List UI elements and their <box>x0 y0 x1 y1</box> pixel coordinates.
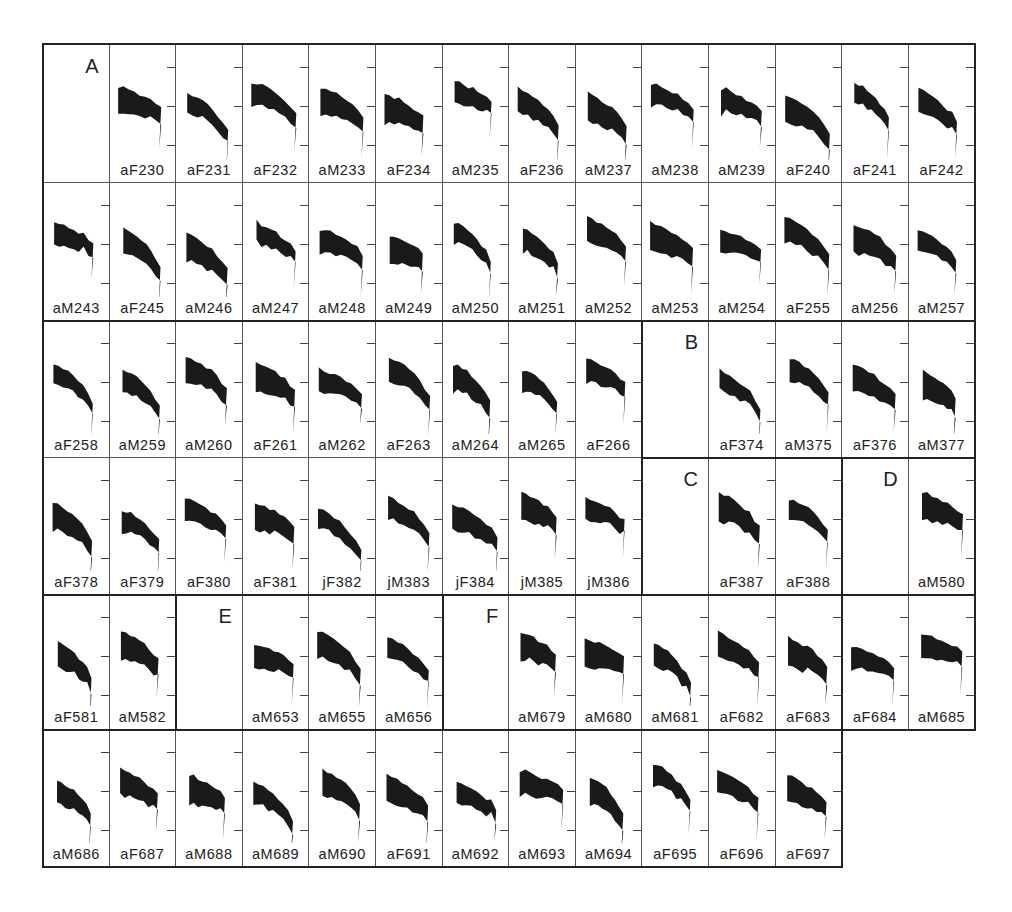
spectrogram-panel: aF230 <box>110 44 177 183</box>
panel-label: aF697 <box>776 846 842 862</box>
panel-label: aF691 <box>376 846 442 862</box>
spectrogram-panel: aM250 <box>443 183 510 321</box>
panel-label: aM262 <box>309 437 375 453</box>
spectrogram-shape <box>776 45 843 160</box>
panel-label: aF581 <box>44 709 109 725</box>
spectrogram-shape <box>776 730 843 843</box>
spectrogram-shape <box>376 321 443 434</box>
panel-label: aF695 <box>642 846 708 862</box>
spectrogram-panel: aM243 <box>43 183 110 321</box>
spectrogram-shape <box>576 45 643 160</box>
spectrogram-panel: aM257 <box>909 183 976 321</box>
spectrogram-panel: aM262 <box>309 321 376 458</box>
spectrogram-panel: aF231 <box>176 44 243 183</box>
group-label-cell: D <box>842 458 909 595</box>
spectrogram-shape <box>842 45 909 160</box>
spectrogram-shape <box>110 45 177 160</box>
panel-label: jM385 <box>509 574 575 590</box>
panel-label: aM248 <box>309 300 375 316</box>
spectrogram-shape <box>576 321 643 434</box>
spectrogram-shape <box>909 321 976 434</box>
spectrogram-panel: aF240 <box>776 44 843 183</box>
spectrogram-shape <box>243 458 310 571</box>
panel-label: aM653 <box>243 709 309 725</box>
panel-label: aM685 <box>909 709 975 725</box>
spectrogram-panel: aM580 <box>909 458 976 595</box>
panel-label: aM251 <box>509 300 575 316</box>
panel-label: aM655 <box>309 709 375 725</box>
spectrogram-shape <box>243 45 310 160</box>
panel-label: aM260 <box>176 437 242 453</box>
panel-label: aF263 <box>376 437 442 453</box>
panel-label: aM680 <box>576 709 642 725</box>
spectrogram-shape <box>243 730 310 843</box>
spectrogram-shape <box>776 321 843 434</box>
spectrogram-panel: aF388 <box>776 458 843 595</box>
spectrogram-shape <box>110 321 177 434</box>
spectrogram-shape <box>376 595 443 706</box>
panel-label: aM249 <box>376 300 442 316</box>
panel-label: aM257 <box>909 300 975 316</box>
spectrogram-shape <box>642 183 709 297</box>
spectrogram-shape <box>909 595 976 706</box>
panel-label: aM233 <box>309 162 375 178</box>
spectrogram-panel: jF384 <box>443 458 510 595</box>
spectrogram-panel: aM246 <box>176 183 243 321</box>
spectrogram-panel: aM685 <box>909 595 976 730</box>
spectrogram-panel: aF376 <box>842 321 909 458</box>
group-label: B <box>685 331 698 354</box>
spectrogram-shape <box>776 183 843 297</box>
panel-label: aM690 <box>309 846 375 862</box>
spectrogram-shape <box>44 458 111 571</box>
spectrogram-panel: aM235 <box>443 44 510 183</box>
spectrogram-panel: aM239 <box>709 44 776 183</box>
panel-label: aF684 <box>842 709 908 725</box>
spectrogram-shape <box>909 45 976 160</box>
spectrogram-panel: aM249 <box>376 183 443 321</box>
panel-label: aF376 <box>842 437 908 453</box>
spectrogram-panel: aM688 <box>176 730 243 867</box>
panel-label: aF261 <box>243 437 309 453</box>
spectrogram-panel: aF695 <box>642 730 709 867</box>
spectrogram-panel: aF687 <box>110 730 177 867</box>
panel-label: aM377 <box>909 437 975 453</box>
panel-label: aM246 <box>176 300 242 316</box>
group-label: C <box>684 468 698 491</box>
spectrogram-panel: aM693 <box>509 730 576 867</box>
panel-label: aF378 <box>44 574 109 590</box>
spectrogram-panel: aF682 <box>709 595 776 730</box>
spectrogram-shape <box>443 183 510 297</box>
spectrogram-panel: aM233 <box>309 44 376 183</box>
spectrogram-panel: aF691 <box>376 730 443 867</box>
spectrogram-shape <box>509 595 576 706</box>
spectrogram-panel: aF379 <box>110 458 177 595</box>
spectrogram-panel: aM681 <box>642 595 709 730</box>
spectrogram-panel: aM692 <box>443 730 510 867</box>
spectrogram-shape <box>576 595 643 706</box>
spectrogram-shape <box>376 730 443 843</box>
panel-label: aM688 <box>176 846 242 862</box>
group-label-cell: E <box>176 595 243 730</box>
spectrogram-shape <box>842 321 909 434</box>
panel-label: jM386 <box>576 574 642 590</box>
spectrogram-shape <box>642 595 709 706</box>
panel-label: aM253 <box>642 300 708 316</box>
spectrogram-panel: aF245 <box>110 183 177 321</box>
group-label-cell: A <box>43 44 110 183</box>
panel-label: aF255 <box>776 300 842 316</box>
panel-label: aF381 <box>243 574 309 590</box>
spectrogram-shape <box>243 321 310 434</box>
spectrogram-panel: aM694 <box>576 730 643 867</box>
spectrogram-shape <box>709 183 776 297</box>
panel-label: aM243 <box>44 300 109 316</box>
spectrogram-shape <box>309 595 376 706</box>
spectrogram-panel: aM653 <box>243 595 310 730</box>
group-label: F <box>486 605 498 628</box>
spectrogram-shape <box>309 321 376 434</box>
spectrogram-shape <box>443 45 510 160</box>
spectrogram-panel: aM582 <box>110 595 177 730</box>
spectrogram-shape <box>509 730 576 843</box>
panel-label: aM686 <box>44 846 109 862</box>
spectrogram-shape <box>309 183 376 297</box>
spectrogram-panel: aM238 <box>642 44 709 183</box>
